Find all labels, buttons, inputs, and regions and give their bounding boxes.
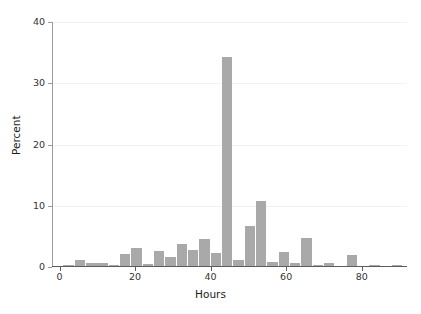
histogram-bar xyxy=(301,238,312,267)
y-tick-label: 20 xyxy=(33,140,45,150)
x-tick-label: 40 xyxy=(205,272,217,282)
gridline xyxy=(52,22,407,23)
histogram-bar xyxy=(245,226,256,267)
x-tick-label: 20 xyxy=(129,272,141,282)
y-tick-mark xyxy=(48,83,52,84)
histogram-bar xyxy=(199,239,210,267)
y-tick-label: 0 xyxy=(39,262,45,272)
x-axis-line xyxy=(52,266,407,267)
histogram-figure: 010203040 020406080 Hours Percent xyxy=(0,0,421,314)
histogram-bar xyxy=(177,244,188,267)
x-tick-label: 0 xyxy=(57,272,63,282)
plot-area xyxy=(52,22,407,267)
x-tick-label: 60 xyxy=(280,272,292,282)
histogram-bar xyxy=(222,57,233,267)
y-axis-line xyxy=(52,22,53,267)
histogram-bar xyxy=(188,250,199,267)
histogram-bar xyxy=(154,251,165,267)
x-tick-label: 80 xyxy=(356,272,368,282)
y-tick-label: 40 xyxy=(33,17,45,27)
y-tick-mark xyxy=(48,206,52,207)
histogram-bar xyxy=(256,201,267,267)
y-tick-mark xyxy=(48,267,52,268)
y-tick-label: 10 xyxy=(33,201,45,211)
x-axis-label: Hours xyxy=(0,289,421,300)
histogram-bar xyxy=(131,248,142,267)
y-axis-label: Percent xyxy=(11,75,22,195)
y-tick-mark xyxy=(48,145,52,146)
y-tick-mark xyxy=(48,22,52,23)
y-tick-label: 30 xyxy=(33,78,45,88)
histogram-bar xyxy=(211,253,222,267)
histogram-bar xyxy=(279,252,290,267)
